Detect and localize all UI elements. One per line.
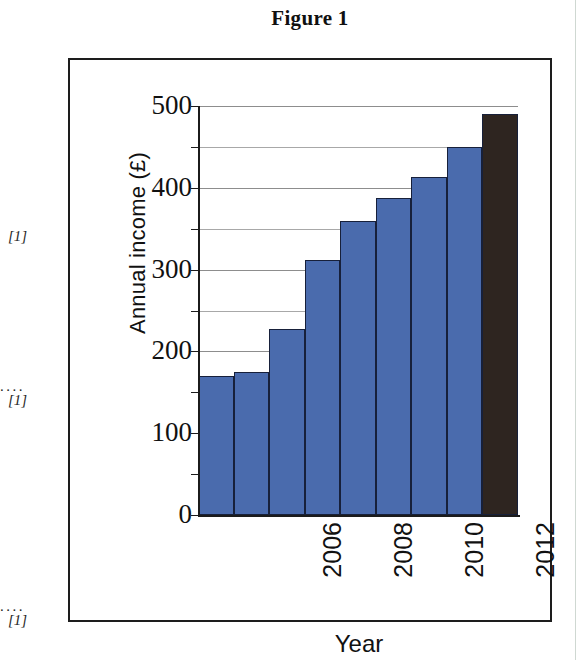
y-axis-tick	[191, 270, 199, 271]
x-axis-line	[198, 515, 520, 517]
y-axis-tick	[191, 229, 199, 230]
bar	[305, 260, 341, 515]
x-axis-tick-label: 2010	[460, 522, 489, 612]
x-axis-tick-label: 2006	[318, 522, 347, 612]
bar-chart: 0100200300400500 Annual income (£) 20062…	[70, 60, 554, 624]
y-axis-tick	[191, 392, 199, 393]
y-axis-tick	[191, 311, 199, 312]
bar	[447, 147, 483, 515]
bar	[411, 177, 447, 515]
figure-title: Figure 1	[68, 6, 552, 31]
bar	[482, 114, 518, 515]
x-axis-tick-label: 2012	[531, 522, 560, 612]
y-axis-title: Annual income (£)	[125, 113, 151, 373]
y-axis-tick	[191, 106, 199, 107]
mark-allocation-3: [1]	[8, 612, 64, 629]
bar	[269, 329, 305, 515]
mark-allocation-1: [1]	[8, 228, 64, 245]
bar	[234, 372, 270, 515]
y-axis-tick	[191, 433, 199, 434]
y-axis-tick	[191, 351, 199, 352]
bar	[198, 376, 234, 515]
y-axis-tick-label: 0	[130, 501, 192, 528]
y-axis-tick	[191, 147, 199, 148]
page-edge-rule	[575, 0, 576, 660]
plot-area	[198, 106, 518, 515]
figure-box: 0100200300400500 Annual income (£) 20062…	[68, 58, 552, 622]
mark-allocation-2: [1]	[8, 392, 64, 409]
y-axis-tick	[191, 188, 199, 189]
y-axis-tick	[191, 515, 199, 516]
y-axis-tick-label: 100	[130, 419, 192, 446]
x-axis-tick-label: 2008	[389, 522, 418, 612]
x-axis-title: Year	[198, 630, 520, 658]
bar	[376, 198, 412, 515]
bar	[340, 221, 376, 515]
y-axis-tick	[191, 474, 199, 475]
gridline	[198, 106, 518, 107]
